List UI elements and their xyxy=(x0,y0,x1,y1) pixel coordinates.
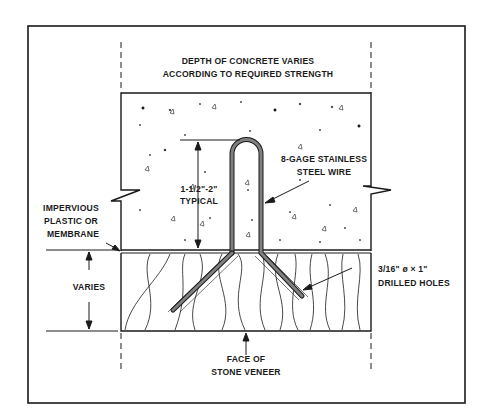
extension-lines xyxy=(121,42,371,370)
varies-label: VARIES xyxy=(73,282,106,292)
face-label-line2: STONE VENEER xyxy=(211,367,281,377)
stone-grain xyxy=(125,254,360,330)
face-label-line1: FACE OF xyxy=(227,354,266,364)
typical-label-line1: 1-1/2"-2" xyxy=(180,184,217,194)
wire-label-line2: STEEL WIRE xyxy=(297,167,351,177)
anchor-wire xyxy=(168,140,308,313)
holes-label-line1: 3/16" ø × 1" xyxy=(378,264,428,274)
concrete-depth-label-line1: DEPTH OF CONCRETE VARIES xyxy=(182,56,315,66)
anchor-detail-diagram: DEPTH OF CONCRETE VARIES ACCORDING TO RE… xyxy=(0,0,485,417)
typical-label-line2: TYPICAL xyxy=(180,196,218,206)
membrane-layer xyxy=(121,250,371,253)
membrane-label-line1: IMPERVIOUS xyxy=(43,203,99,213)
membrane-label-line2: PLASTIC OR xyxy=(44,216,99,226)
stone-veneer-layer xyxy=(121,253,371,331)
wire-label-line1: 8-GAGE STAINLESS xyxy=(281,154,367,164)
leader-lines xyxy=(106,181,352,355)
membrane-label-line3: MEMBRANE xyxy=(47,229,99,239)
concrete-depth-label-line2: ACCORDING TO REQUIRED STRENGTH xyxy=(163,69,334,79)
holes-label-line2: DRILLED HOLES xyxy=(378,278,450,288)
